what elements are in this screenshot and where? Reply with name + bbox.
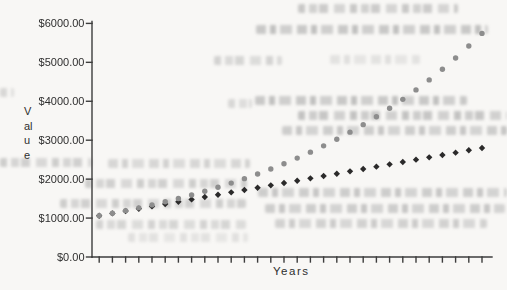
data-point-diamond (241, 187, 247, 193)
y-axis-tick-label: $5000.00 (39, 56, 85, 68)
data-point-circle (229, 180, 234, 185)
data-point-circle (308, 149, 313, 154)
data-point-circle (176, 196, 181, 201)
data-point-circle (347, 129, 352, 134)
data-point-diamond (215, 192, 221, 198)
data-point-diamond (320, 173, 326, 179)
data-point-diamond (254, 184, 260, 190)
data-point-diamond (466, 147, 472, 153)
y-axis-title: Value (24, 104, 33, 162)
data-point-diamond (373, 163, 379, 169)
data-point-diamond (307, 175, 313, 181)
data-point-circle (295, 155, 300, 160)
data-point-diamond (228, 189, 234, 195)
y-axis-tick-label: $4000.00 (39, 95, 85, 107)
data-point-diamond (347, 168, 353, 174)
data-point-diamond (294, 177, 300, 183)
data-point-circle (189, 192, 194, 197)
data-point-diamond (439, 152, 445, 158)
data-point-circle (453, 55, 458, 60)
data-point-diamond (426, 154, 432, 160)
data-point-circle (202, 189, 207, 194)
data-point-circle (387, 106, 392, 111)
scanned-page: $6000.00$5000.00$4000.00$3000.00$2000.00… (0, 0, 507, 290)
data-point-circle (440, 67, 445, 72)
data-point-circle (321, 143, 326, 148)
data-point-diamond (334, 170, 340, 176)
y-axis-tick-label: $6000.00 (39, 17, 85, 29)
data-point-diamond (479, 145, 485, 151)
scatter-chart: $6000.00$5000.00$4000.00$3000.00$2000.00… (0, 0, 507, 290)
y-axis-tick-label: $1000.00 (39, 212, 85, 224)
data-point-diamond (400, 159, 406, 165)
data-point-circle (281, 161, 286, 166)
data-point-circle (334, 137, 339, 142)
data-point-diamond (268, 182, 274, 188)
data-point-circle (242, 176, 247, 181)
data-point-circle (400, 97, 405, 102)
data-point-circle (466, 43, 471, 48)
data-point-circle (361, 122, 366, 127)
data-point-circle (163, 199, 168, 204)
data-point-circle (479, 31, 484, 36)
data-point-diamond (413, 156, 419, 162)
data-point-circle (374, 114, 379, 119)
data-point-circle (268, 166, 273, 171)
y-axis-tick-label: $2000.00 (39, 173, 85, 185)
x-axis-title: Years (273, 265, 310, 277)
data-point-circle (97, 213, 102, 218)
data-point-circle (110, 211, 115, 216)
data-point-diamond (386, 161, 392, 167)
data-point-diamond (281, 180, 287, 186)
data-point-circle (427, 77, 432, 82)
y-axis-tick-label: $0.00 (57, 251, 85, 263)
data-point-circle (136, 205, 141, 210)
data-point-circle (123, 208, 128, 213)
data-point-diamond (202, 194, 208, 200)
data-point-diamond (360, 166, 366, 172)
data-point-circle (149, 202, 154, 207)
data-point-diamond (452, 149, 458, 155)
y-axis-tick-label: $3000.00 (39, 134, 85, 146)
data-point-circle (413, 87, 418, 92)
data-point-circle (215, 185, 220, 190)
data-point-circle (255, 171, 260, 176)
